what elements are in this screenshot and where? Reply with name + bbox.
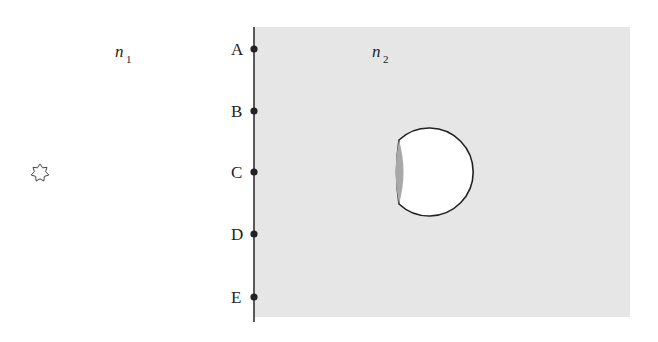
- point-e: [250, 293, 257, 300]
- n1-subscript: 1: [126, 53, 132, 65]
- point-c: [250, 168, 257, 175]
- n1-label: n: [115, 42, 124, 61]
- sphere-body: [397, 128, 474, 216]
- refraction-diagram: A B C D E n 1 n 2: [0, 0, 658, 342]
- label-c: C: [231, 163, 242, 182]
- eye-sphere: [396, 128, 474, 216]
- label-d: D: [231, 225, 243, 244]
- point-labels: A B C D E: [231, 40, 244, 307]
- label-e: E: [231, 288, 241, 307]
- star-icon: [31, 164, 49, 181]
- label-b: B: [231, 102, 242, 121]
- n2-label: n: [372, 42, 381, 61]
- point-b: [250, 107, 257, 114]
- label-a: A: [231, 40, 244, 59]
- n2-subscript: 2: [383, 53, 389, 65]
- point-d: [250, 230, 257, 237]
- point-a: [250, 45, 257, 52]
